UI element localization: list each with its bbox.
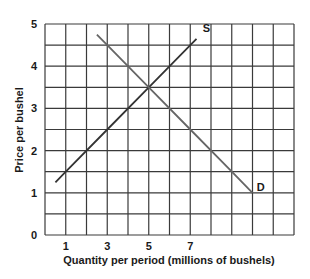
x-tick-label: 1 <box>63 240 69 252</box>
y-tick-label: 0 <box>31 229 37 241</box>
supply-demand-chart: SD 012345 1357 Price per bushel Quantity… <box>0 0 310 279</box>
x-axis-ticks: 1357 <box>63 240 194 252</box>
curve-label-s: S <box>203 22 210 34</box>
grid <box>45 24 294 235</box>
x-axis-label: Quantity per period (millions of bushels… <box>63 254 275 266</box>
supply-curve <box>55 39 196 183</box>
y-tick-label: 4 <box>31 60 38 72</box>
y-tick-label: 2 <box>31 145 37 157</box>
y-tick-label: 3 <box>31 102 37 114</box>
demand-curve <box>97 35 253 193</box>
y-tick-label: 5 <box>31 18 37 30</box>
x-tick-label: 7 <box>187 240 193 252</box>
x-tick-label: 5 <box>146 240 152 252</box>
y-axis-label: Price per bushel <box>13 87 25 173</box>
chart-canvas: SD 012345 1357 Price per bushel Quantity… <box>0 0 310 279</box>
y-tick-label: 1 <box>31 187 37 199</box>
y-axis-ticks: 012345 <box>31 18 38 241</box>
x-tick-label: 3 <box>104 240 110 252</box>
curve-label-d: D <box>257 181 265 193</box>
